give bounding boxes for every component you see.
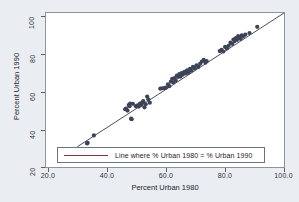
scatter-point	[247, 31, 251, 35]
x-axis-title: Percent Urban 1980	[45, 183, 285, 192]
scatter-point	[221, 49, 225, 53]
legend-label: Line where % Urban 1980 = % Urban 1990	[115, 152, 252, 159]
y-axis-tick-label: 40	[29, 131, 36, 139]
scatter-point	[243, 32, 247, 36]
scatter-point	[130, 117, 134, 121]
y-axis-tick-label: 80	[29, 55, 36, 63]
scatter-point	[125, 108, 129, 112]
plot-area	[45, 12, 285, 168]
scatter-point	[86, 141, 90, 145]
scatter-point	[144, 102, 148, 106]
plot-canvas	[46, 13, 284, 167]
x-axis-tick-label: 100.0	[268, 172, 299, 179]
y-axis-tick-label: 100	[29, 17, 36, 30]
x-axis-tick-label: 80.0	[210, 172, 240, 179]
scatter-point	[148, 101, 152, 105]
x-axis-tick-label: 40.0	[92, 172, 122, 179]
scatter-point	[167, 84, 171, 88]
reference-line-45deg	[77, 13, 284, 147]
scatter-point	[255, 25, 259, 29]
x-axis-tick-label: 60.0	[151, 172, 181, 179]
scatter-point	[92, 133, 96, 137]
legend-line-swatch	[64, 155, 108, 156]
x-axis-tick-label: 20.0	[33, 172, 63, 179]
y-axis-tick-label: 60	[29, 93, 36, 101]
y-axis-title: Percent Urban 1990	[12, 32, 21, 142]
scatter-point	[174, 78, 178, 82]
scatter-point	[205, 59, 209, 63]
legend: Line where % Urban 1980 = % Urban 1990	[57, 147, 265, 163]
scatter-chart-figure: Percent Urban 1990 100 80 60 40 20 20.0 …	[0, 0, 299, 202]
